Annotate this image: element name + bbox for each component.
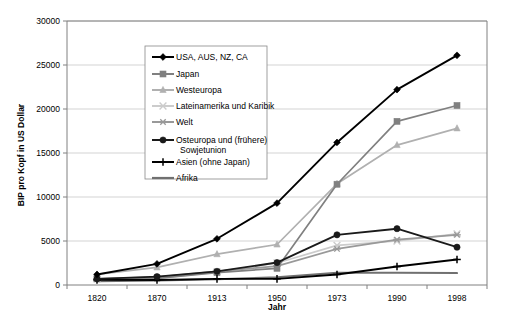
- marker-circle: [334, 232, 340, 238]
- legend-label: Welt: [176, 117, 193, 127]
- marker-circle: [154, 274, 160, 280]
- x-tick-label: 1973: [328, 293, 347, 303]
- legend-label: Lateinamerika und Karibik: [176, 101, 275, 111]
- x-tick-label: 1870: [148, 293, 167, 303]
- legend-group: USA, AUS, NZ, CAJapanWesteuropaLateiname…: [145, 46, 275, 183]
- marker-square: [334, 181, 340, 187]
- legend-label: Japan: [176, 69, 199, 79]
- y-tick-label: 25000: [36, 60, 60, 70]
- marker-triangle: [454, 125, 460, 131]
- marker-square: [274, 265, 280, 271]
- marker-square: [394, 118, 400, 124]
- marker-square: [160, 71, 166, 77]
- xtick-labels-group: 1820187019131950197319901998: [67, 285, 487, 303]
- y-tick-label: 10000: [36, 192, 60, 202]
- y-tick-label: 5000: [41, 236, 60, 246]
- x-tick-label: 1998: [448, 293, 467, 303]
- legend-label: Asien (ohne Japan): [176, 157, 250, 167]
- x-tick-label: 1820: [88, 293, 107, 303]
- series-welt: [93, 232, 461, 281]
- marker-square: [454, 102, 460, 108]
- legend-label: Westeuropa: [176, 85, 222, 95]
- legend-label-continuation: Sowjetunion: [180, 145, 227, 155]
- legend-label: Osteuropa und (frühere): [176, 135, 267, 145]
- legend-label: USA, AUS, NZ, CA: [176, 52, 248, 62]
- y-axis-title: BIP pro Kopf in US Dollar: [16, 103, 26, 206]
- chart-container: 050001000015000200002500030000 182018701…: [0, 0, 522, 319]
- marker-circle: [214, 268, 220, 274]
- marker-circle: [160, 137, 166, 143]
- ytick-labels-group: 050001000015000200002500030000: [36, 16, 67, 290]
- legend-label: Sowjetunion: [180, 145, 227, 155]
- y-tick-label: 20000: [36, 104, 60, 114]
- x-axis-title: Jahr: [268, 302, 287, 312]
- x-tick-label: 1990: [388, 293, 407, 303]
- legend-label: Afrika: [176, 173, 198, 183]
- y-tick-label: 30000: [36, 16, 60, 26]
- gridlines-group: [67, 21, 487, 241]
- x-tick-label: 1913: [208, 293, 227, 303]
- marker-circle: [274, 259, 280, 265]
- y-tick-label: 0: [55, 280, 60, 290]
- line-chart: 050001000015000200002500030000 182018701…: [0, 0, 522, 319]
- marker-circle: [394, 226, 400, 232]
- y-tick-label: 15000: [36, 148, 60, 158]
- marker-circle: [454, 244, 460, 250]
